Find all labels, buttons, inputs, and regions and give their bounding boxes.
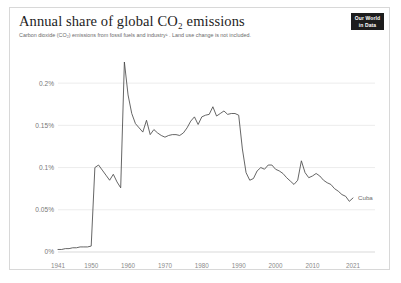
y-tick-label: 0.15% bbox=[35, 122, 54, 129]
x-tick-label: 2000 bbox=[269, 262, 284, 269]
series-end-labels: Cuba bbox=[358, 194, 373, 201]
y-axis-tick-labels: 0%0.05%0.1%0.15%0.2% bbox=[35, 80, 54, 256]
series-line-cuba bbox=[58, 62, 353, 249]
x-tick-label: 1970 bbox=[158, 262, 173, 269]
x-tick-label: 2021 bbox=[346, 262, 361, 269]
line-chart-svg: 0%0.05%0.1%0.15%0.2% 1941195019601970198… bbox=[10, 8, 391, 271]
y-tick-label: 0.2% bbox=[39, 80, 54, 87]
series-label-cuba: Cuba bbox=[358, 194, 373, 201]
x-tick-label: 1980 bbox=[195, 262, 210, 269]
y-tick-label: 0.1% bbox=[39, 164, 54, 171]
x-tick-label: 2010 bbox=[305, 262, 320, 269]
y-tick-label: 0% bbox=[44, 248, 54, 255]
chart-card: Annual share of global CO₂ emissions Car… bbox=[9, 7, 390, 270]
x-tick-label: 1960 bbox=[121, 262, 136, 269]
x-axis-tick-labels: 194119501960197019801990200020102021 bbox=[51, 262, 361, 269]
x-tick-label: 1941 bbox=[51, 262, 66, 269]
x-tick-label: 1950 bbox=[84, 262, 99, 269]
x-tick-label: 1990 bbox=[232, 262, 247, 269]
series-lines bbox=[58, 62, 353, 249]
y-tick-label: 0.05% bbox=[35, 206, 54, 213]
gridlines bbox=[58, 83, 375, 252]
plot-area: 0%0.05%0.1%0.15%0.2% 1941195019601970198… bbox=[10, 8, 391, 271]
